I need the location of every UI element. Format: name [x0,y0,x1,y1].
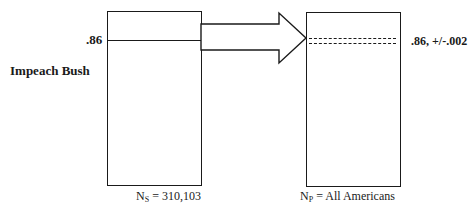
inference-arrow-icon [0,0,475,211]
population-caption: NP = All Americans [300,189,395,204]
population-value-label: .86, +/-.002 [411,34,467,49]
sample-caption: NS = 310,103 [136,189,201,204]
population-caption-prefix: N [300,189,309,203]
sample-caption-prefix: N [136,189,145,203]
population-estimate-band [309,38,396,44]
population-box [306,12,401,187]
population-caption-rest: = All Americans [313,189,395,203]
sample-caption-rest: = 310,103 [149,189,201,203]
